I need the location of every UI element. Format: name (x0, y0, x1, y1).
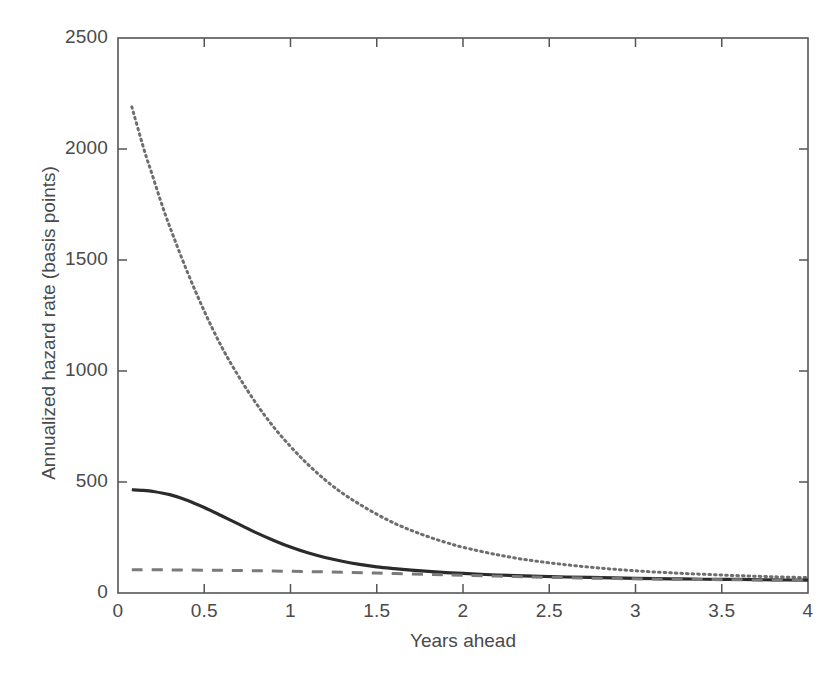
solid-curve (132, 490, 808, 580)
x-tick-label: 0.5 (184, 600, 224, 622)
x-tick-label: 1.5 (357, 600, 397, 622)
axis-ticks (118, 38, 808, 593)
chart-plot-area (0, 0, 830, 674)
x-axis-label: Years ahead (118, 630, 808, 652)
y-axis-label: Annualized hazard rate (basis points) (38, 113, 60, 533)
hazard-rate-chart: 00.511.522.533.54 05001000150020002500 A… (0, 0, 830, 674)
x-tick-label: 2 (443, 600, 483, 622)
x-tick-label: 3.5 (702, 600, 742, 622)
x-tick-label: 4 (788, 600, 828, 622)
x-tick-label: 3 (616, 600, 656, 622)
dotted-curve (132, 107, 808, 578)
x-tick-label: 2.5 (529, 600, 569, 622)
plot-frame (118, 38, 808, 593)
x-tick-label: 0 (98, 600, 138, 622)
y-tick-label: 2500 (48, 26, 108, 48)
data-series (132, 107, 808, 581)
y-axis-label-container: Annualized hazard rate (basis points) (14, 0, 54, 674)
y-tick-label: 0 (48, 581, 108, 603)
x-tick-label: 1 (271, 600, 311, 622)
